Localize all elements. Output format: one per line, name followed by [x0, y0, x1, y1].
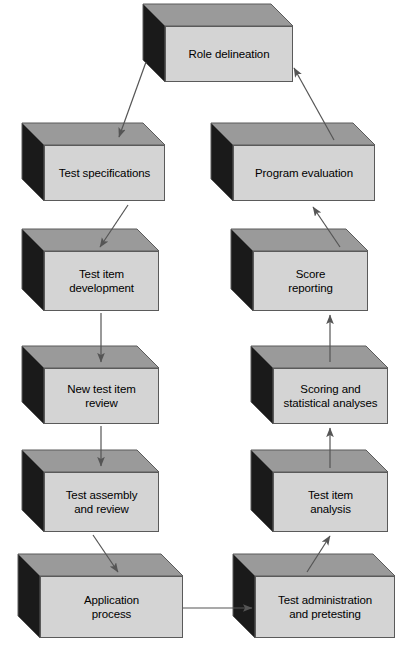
box-front-face: Scoring and statistical analyses	[273, 368, 388, 424]
process-box-label: Test specifications	[59, 166, 150, 180]
process-box-program-evaluation: Program evaluation	[233, 145, 375, 201]
process-box-label: Application process	[84, 593, 139, 621]
process-box-test-specifications: Test specifications	[44, 145, 165, 201]
process-box-label: Program evaluation	[255, 166, 353, 180]
box-front-face: Role delineation	[165, 26, 293, 82]
process-box-scoring-analyses: Scoring and statistical analyses	[273, 368, 388, 424]
box-front-face: Program evaluation	[233, 145, 375, 201]
box-top-face	[22, 123, 165, 145]
box-top-face	[22, 450, 159, 472]
box-front-face: Test item development	[44, 251, 159, 311]
process-box-label: Role delineation	[189, 47, 270, 61]
process-box-test-item-analysis: Test item analysis	[273, 472, 388, 532]
box-front-face: Test administration and pretesting	[255, 576, 395, 638]
box-front-face: Test specifications	[44, 145, 165, 201]
box-top-face	[22, 229, 159, 251]
box-top-face	[18, 554, 183, 576]
process-box-label: Test administration and pretesting	[278, 593, 372, 621]
process-box-score-reporting: Score reporting	[253, 251, 368, 311]
process-box-label: New test item review	[67, 382, 135, 410]
process-box-label: Test item analysis	[308, 488, 353, 516]
process-box-test-item-development: Test item development	[44, 251, 159, 311]
box-top-face	[143, 4, 293, 26]
box-top-face	[251, 346, 388, 368]
box-top-face	[22, 346, 159, 368]
process-box-new-test-item-review: New test item review	[44, 368, 159, 424]
process-box-role-delineation: Role delineation	[165, 26, 293, 82]
process-box-label: Score reporting	[288, 267, 333, 295]
process-box-test-assembly-review: Test assembly and review	[44, 472, 159, 532]
box-top-face	[211, 123, 375, 145]
process-box-application-process: Application process	[40, 576, 183, 638]
box-front-face: Test assembly and review	[44, 472, 159, 532]
box-front-face: New test item review	[44, 368, 159, 424]
box-top-face	[233, 554, 395, 576]
box-front-face: Application process	[40, 576, 183, 638]
process-box-label: Scoring and statistical analyses	[284, 382, 378, 410]
process-flow-diagram: Role delineationTest specificationsProgr…	[0, 0, 407, 660]
box-top-face	[251, 450, 388, 472]
process-box-test-administration: Test administration and pretesting	[255, 576, 395, 638]
box-front-face: Score reporting	[253, 251, 368, 311]
box-top-face	[231, 229, 368, 251]
process-box-label: Test assembly and review	[66, 488, 138, 516]
box-front-face: Test item analysis	[273, 472, 388, 532]
process-box-label: Test item development	[69, 267, 134, 295]
